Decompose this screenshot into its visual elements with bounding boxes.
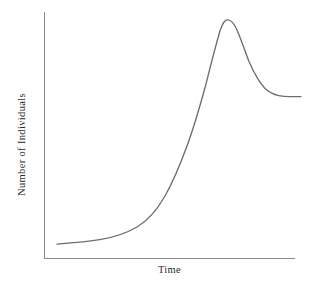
y-axis-label: Number of Individuals bbox=[14, 0, 30, 289]
population-curve bbox=[57, 20, 301, 244]
x-axis-label: Time bbox=[44, 263, 295, 277]
plot-area bbox=[0, 0, 309, 289]
chart-figure: Number of Individuals Time bbox=[0, 0, 309, 289]
